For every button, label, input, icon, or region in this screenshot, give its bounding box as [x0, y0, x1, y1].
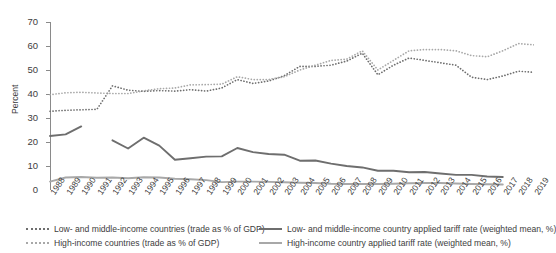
legend-label: High-income country applied tariff rate …: [287, 238, 511, 248]
plot-area: [46, 22, 534, 190]
y-axis-title: Percent: [0, 0, 8, 70]
y-axis-tick-label: 20: [16, 137, 38, 146]
legend-solid-line-icon: [259, 242, 282, 244]
legend-item[interactable]: Low- and middle-income country applied t…: [259, 222, 556, 235]
legend-label: Low- and middle-income country applied t…: [287, 224, 556, 234]
axes: [46, 22, 534, 190]
series-lines: [50, 44, 534, 185]
x-axis-tick-labels: 1988198919901991199219931994199519961997…: [46, 191, 534, 225]
series-line: [50, 53, 534, 111]
legend-item[interactable]: Low- and middle-income countries (trade …: [26, 222, 265, 235]
legend-item[interactable]: High-income country applied tariff rate …: [259, 236, 511, 249]
y-axis-tick-label: 0: [16, 185, 38, 194]
y-axis-tick-label: 10: [16, 161, 38, 170]
legend-label: High-income countries (trade as % of GDP…: [54, 238, 219, 248]
chart-legend: Low- and middle-income countries (trade …: [0, 222, 543, 253]
chart-svg: [46, 22, 534, 190]
y-axis-title-text: Percent: [10, 34, 20, 114]
legend-dotted-line-icon: [26, 228, 49, 230]
x-axis-tick-label: 2019: [532, 175, 551, 196]
legend-dotted-line-icon: [26, 242, 49, 244]
y-axis-tick-label: 70: [16, 17, 38, 26]
legend-item[interactable]: High-income countries (trade as % of GDP…: [26, 236, 219, 249]
legend-solid-line-icon: [259, 228, 282, 230]
series-line: [50, 44, 534, 95]
series-line: [112, 138, 502, 177]
y-axis-tick-label: 30: [16, 113, 38, 122]
series-line: [50, 126, 81, 136]
legend-label: Low- and middle-income countries (trade …: [54, 224, 265, 234]
